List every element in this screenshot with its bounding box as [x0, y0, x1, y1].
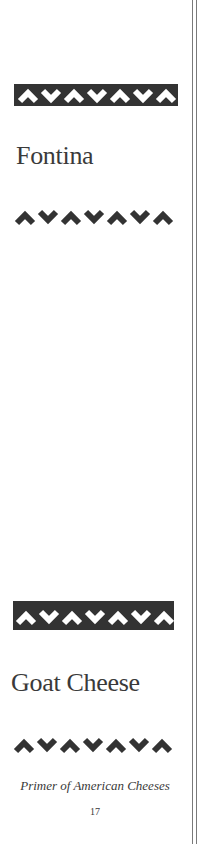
ornament-chevrons-goat [13, 735, 173, 755]
chevron-pattern-icon [13, 735, 173, 755]
page-edge-rule-left [192, 0, 193, 844]
chevron-pattern-icon [13, 601, 174, 630]
page-edge-rule-right [196, 0, 197, 844]
ornament-band-goat [13, 601, 174, 630]
chevron-pattern-icon [14, 207, 174, 227]
section-title-goat-cheese: Goat Cheese [11, 670, 140, 696]
section-title-fontina: Fontina [16, 143, 93, 169]
ornament-band-top [14, 84, 178, 106]
chevron-pattern-icon [14, 84, 178, 106]
page-number: 17 [0, 806, 190, 817]
ornament-chevrons-fontina [14, 207, 174, 227]
running-footer-title: Primer of American Cheeses [0, 778, 190, 794]
